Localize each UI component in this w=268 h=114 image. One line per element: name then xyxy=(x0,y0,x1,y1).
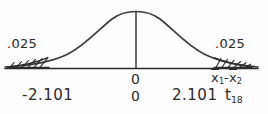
x-bar-2-subscript: 2 xyxy=(237,77,242,86)
statistic-axis-label: x1-x2 xyxy=(211,71,242,86)
t-statistic-label: t18 xyxy=(225,88,243,104)
x-bar-1: x xyxy=(211,71,219,84)
t-degrees-of-freedom: 18 xyxy=(231,94,243,105)
center-zero-label: 0 xyxy=(131,89,140,103)
right-tail-area-label: .025 xyxy=(215,37,245,50)
axis-center-zero-label: 0 xyxy=(131,72,140,86)
left-tail-area-label: .025 xyxy=(7,37,37,50)
right-critical-value-label: 2.101 xyxy=(172,88,217,103)
right-tail-shaded-region xyxy=(214,58,253,68)
t-distribution-figure: .025 .025 0 x1-x2 -2.101 0 2.101 t18 xyxy=(0,0,268,114)
x-bar-2: x xyxy=(229,71,237,84)
left-critical-value-label: -2.101 xyxy=(22,88,73,103)
